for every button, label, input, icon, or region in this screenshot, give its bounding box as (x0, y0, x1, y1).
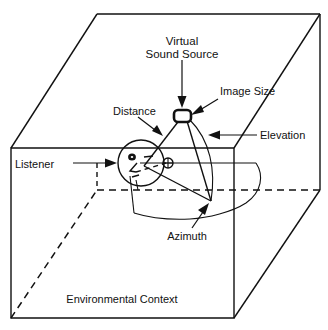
leader-line-distance (138, 117, 155, 130)
label-environmental-context: Environmental Context (66, 293, 177, 305)
arrowhead-image-size (191, 105, 204, 115)
label-image-size: Image Size (220, 85, 275, 97)
leader-distance (138, 117, 163, 136)
box-edge-top-left-receding (11, 14, 97, 148)
plane-edge-front-curve (134, 213, 190, 219)
arrowhead-elevation (208, 131, 220, 140)
head-forward-axis (136, 163, 166, 172)
head-eye (129, 155, 134, 159)
acoustic-cue-diagram: Virtual Sound Source Image Size Distance… (0, 0, 328, 330)
image-size-marker (174, 110, 191, 122)
arrowhead-listener (105, 159, 117, 168)
leader-azimuth (192, 203, 209, 228)
leader-image-size (191, 99, 218, 115)
label-elevation: Elevation (260, 129, 305, 141)
elevation-drop-line (187, 121, 211, 201)
sound-source-marker-group (174, 110, 191, 122)
label-virtual-sound-source-line1: Virtual (166, 35, 198, 47)
arrowhead-distance (152, 125, 163, 136)
leader-line-azimuth (192, 212, 203, 228)
diagram-canvas: Virtual Sound Source Image Size Distance… (0, 0, 328, 330)
leader-listener (73, 159, 117, 168)
box-edge-bottom-right-receding (234, 190, 320, 318)
leader-line-image-size (200, 99, 218, 110)
box-edge-top-right-receding (234, 14, 320, 148)
azimuth-projection-vector (144, 166, 211, 201)
label-distance: Distance (113, 105, 156, 117)
elevation-arc (190, 120, 213, 201)
label-azimuth: Azimuth (167, 230, 207, 242)
spatial-vectors (136, 118, 211, 201)
label-virtual-sound-source-line2: Sound Source (146, 48, 219, 60)
head-mouth (132, 175, 139, 177)
label-listener: Listener (15, 158, 54, 170)
azimuth-reference-plane (130, 163, 261, 219)
head-nose (130, 163, 137, 172)
arrowhead-vss (178, 96, 187, 108)
leader-elevation (208, 131, 257, 140)
head-brow (144, 156, 153, 157)
arrowhead-azimuth (198, 203, 209, 215)
plane-edge-left (130, 176, 134, 213)
leader-virtual-sound-source (178, 60, 187, 108)
elevation-arc-group (190, 120, 213, 201)
